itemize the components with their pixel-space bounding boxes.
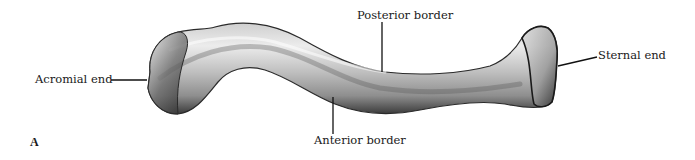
acromial-end-label: Acromial end bbox=[35, 74, 113, 86]
sternal-end-label: Sternal end bbox=[598, 50, 666, 62]
clavicle-shaft bbox=[148, 23, 557, 114]
clavicle-figure: Acromial end Posterior border Anterior b… bbox=[0, 0, 695, 160]
sternal-end-leader bbox=[558, 57, 597, 66]
posterior-border-label: Posterior border bbox=[357, 10, 453, 22]
panel-letter: A bbox=[30, 136, 39, 148]
anterior-border-label: Anterior border bbox=[314, 135, 406, 147]
